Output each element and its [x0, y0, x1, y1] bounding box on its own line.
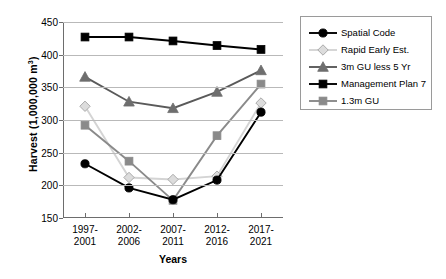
y-axis-tick-label: 400: [41, 49, 58, 60]
circle-marker-icon: [308, 26, 338, 40]
legend-item-1-3m-gu[interactable]: 1.3m GU: [301, 92, 431, 109]
x-axis-tick-label: 2012-2016: [204, 224, 230, 247]
x-axis-tick-label-line: 2001: [72, 236, 98, 248]
data-point-marker: [213, 42, 221, 50]
x-axis-tick-mark: [85, 213, 86, 218]
x-axis-tick-label-line: 1997-: [72, 224, 98, 236]
data-point-marker: [80, 72, 91, 82]
x-axis-tick-label-line: 2021: [248, 236, 274, 248]
y-axis-tick-mark: [59, 22, 63, 23]
gridline: [63, 153, 283, 154]
y-axis-title-superscript: 3: [27, 60, 34, 64]
x-axis-tick-label: 2002-2006: [116, 224, 142, 247]
data-point-marker: [256, 98, 266, 108]
x-axis-tick-label: 1997-2001: [72, 224, 98, 247]
square-marker-icon: [308, 77, 338, 91]
gridline: [63, 120, 283, 121]
data-point-marker: [169, 196, 177, 204]
plot-area: 4504003503002502001501997-20012002-20062…: [63, 22, 283, 218]
gridline: [63, 185, 283, 186]
legend-item-3m-gu-less-5-yr[interactable]: 3m GU less 5 Yr: [301, 58, 431, 75]
data-point-marker: [257, 108, 265, 116]
square-marker-icon: [308, 94, 338, 108]
data-point-marker: [81, 160, 89, 168]
y-axis-tick-mark: [59, 185, 63, 186]
y-axis-tick-label: 150: [41, 213, 58, 224]
x-axis-tick-mark: [261, 213, 262, 218]
y-axis-tick-label: 350: [41, 82, 58, 93]
x-axis-tick-label: 2017-2021: [248, 224, 274, 247]
data-point-marker: [80, 101, 90, 111]
data-point-marker: [319, 97, 327, 105]
data-point-marker: [256, 65, 267, 75]
x-axis-tick-label-line: 2007-: [160, 224, 186, 236]
x-axis-tick-label-line: 2012-: [204, 224, 230, 236]
legend-item-management-plan-7[interactable]: Management Plan 7: [301, 75, 431, 92]
y-axis-tick-label: 200: [41, 180, 58, 191]
x-axis-tick-mark: [173, 213, 174, 218]
y-axis-tick-label: 300: [41, 115, 58, 126]
harvest-line-chart: Harvest (1,000,000 m3) 45040035030025020…: [0, 0, 446, 279]
triangle-marker-icon: [308, 60, 338, 74]
x-axis-tick-label: 2007-2011: [160, 224, 186, 247]
legend-item-spatial-code[interactable]: Spatial Code: [301, 24, 431, 41]
y-axis-tick-mark: [59, 120, 63, 121]
data-point-marker: [168, 174, 178, 184]
y-axis-tick-label: 250: [41, 147, 58, 158]
gridline: [63, 55, 283, 56]
data-point-marker: [318, 44, 328, 54]
y-axis-tick-mark: [59, 218, 63, 219]
x-axis-tick-label-line: 2002-: [116, 224, 142, 236]
data-point-marker: [125, 157, 133, 165]
data-point-marker: [319, 28, 327, 36]
series-line: [85, 112, 261, 200]
y-axis-tick-mark: [59, 55, 63, 56]
y-axis-title: Harvest (1,000,000 m3): [27, 29, 40, 199]
y-axis-tick-mark: [59, 153, 63, 154]
x-axis-tick-label-line: 2017-: [248, 224, 274, 236]
data-point-marker: [213, 132, 221, 140]
legend-label: 1.3m GU: [341, 95, 379, 106]
data-point-marker: [125, 33, 133, 41]
legend-label: Spatial Code: [341, 27, 395, 38]
data-point-marker: [257, 46, 265, 54]
legend-label: 3m GU less 5 Yr: [341, 61, 411, 72]
legend-item-rapid-early-est[interactable]: Rapid Early Est.: [301, 41, 431, 58]
data-point-marker: [124, 96, 135, 106]
x-axis-tick-mark: [129, 213, 130, 218]
x-axis-tick-label-line: 2006: [116, 236, 142, 248]
gridline: [63, 22, 283, 23]
data-point-marker: [213, 176, 221, 184]
data-point-marker: [81, 121, 89, 129]
data-point-marker: [169, 37, 177, 45]
y-axis-tick-mark: [59, 87, 63, 88]
diamond-marker-icon: [308, 43, 338, 57]
x-axis-tick-label-line: 2011: [160, 236, 186, 248]
legend-label: Rapid Early Est.: [341, 44, 409, 55]
x-axis-tick-label-line: 2016: [204, 236, 230, 248]
y-axis-title-close: ): [27, 56, 39, 60]
y-axis-title-text: Harvest (1,000,000 m: [27, 64, 39, 172]
data-point-marker: [81, 33, 89, 41]
y-axis-tick-label: 450: [41, 17, 58, 28]
gridline: [63, 87, 283, 88]
x-axis-tick-mark: [217, 213, 218, 218]
x-axis-title: Years: [63, 253, 283, 265]
data-point-marker: [319, 80, 327, 88]
legend-label: Management Plan 7: [341, 78, 426, 89]
chart-legend: Spatial CodeRapid Early Est.3m GU less 5…: [300, 16, 432, 110]
data-point-marker: [124, 172, 134, 182]
